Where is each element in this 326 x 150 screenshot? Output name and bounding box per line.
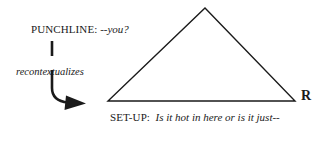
vertex-label-r: R (301, 88, 311, 104)
setup-prefix: SET-UP: (110, 111, 150, 123)
setup-annotation: SET-UP: Is it hot in here or is it just-… (110, 110, 288, 124)
punchline-quote: --you? (100, 23, 129, 35)
setup-quote: Is it hot in here or is it just-- (156, 111, 280, 123)
punchline-prefix: PUNCHLINE: (31, 23, 97, 35)
arrow-head-icon (65, 96, 87, 111)
punchline-annotation: PUNCHLINE: --you? (31, 23, 129, 35)
triangle-shape (108, 8, 295, 101)
relation-label: recontextualizes (16, 66, 84, 78)
diagram-canvas: PUNCHLINE: --you? recontextualizes SET-U… (0, 0, 326, 150)
